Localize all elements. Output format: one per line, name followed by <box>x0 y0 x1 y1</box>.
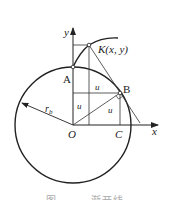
u-label-left: u <box>77 101 82 111</box>
u-label-ob: u <box>108 105 113 115</box>
u-label-top: u <box>95 82 100 92</box>
right-angle-mark <box>116 96 123 100</box>
point-k-label: K(x, y) <box>97 43 128 56</box>
radius-label: rb <box>45 103 53 116</box>
point-k-marker <box>87 43 91 47</box>
y-axis-label: y <box>63 26 69 38</box>
point-a-marker <box>71 65 75 69</box>
point-a-label: A <box>63 73 71 85</box>
figure-caption: 图 — — 渐开线 <box>0 192 170 200</box>
point-b-label: B <box>123 83 130 95</box>
point-c-label: C <box>115 128 123 140</box>
point-b-marker <box>118 91 122 95</box>
involute-diagram: y x O A B C K(x, y) u u u rb <box>0 0 170 200</box>
origin-label: O <box>68 128 76 140</box>
x-axis-label: x <box>151 125 157 137</box>
